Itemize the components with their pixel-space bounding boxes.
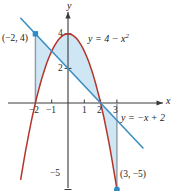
x-tick-label-minus2: −2	[29, 106, 39, 116]
point-label-minus2-4: (−2, 4)	[2, 34, 28, 44]
y-axis-label: y	[67, 1, 71, 11]
y-tick-label-4: 4	[58, 29, 63, 39]
x-tick-label-3: 3	[113, 106, 118, 116]
equation-label-line: y = −x + 2	[121, 113, 165, 123]
x-axis-label: x	[166, 96, 170, 106]
point-marker-b	[114, 187, 120, 191]
equation-label-parabola: y = 4 − x2	[88, 33, 129, 44]
plot-canvas	[0, 0, 179, 191]
x-axis-arrow	[157, 100, 164, 105]
x-tick-label-2: 2	[97, 106, 102, 116]
x-tick-label-minus1: −1	[46, 106, 56, 116]
equation-parabola-text: y = 4 − x	[88, 33, 125, 44]
equation-parabola-exponent: 2	[125, 32, 129, 40]
point-label-3-minus5: (3, −5)	[120, 170, 146, 180]
y-tick-label-2: 2	[58, 64, 63, 74]
point-marker-a	[33, 31, 38, 36]
y-tick-label-minus5: −5	[50, 169, 60, 179]
y-axis-arrow	[65, 12, 70, 19]
graph-figure: y x y = 4 − x2 y = −x + 2 (−2, 4) (3, −5…	[0, 0, 179, 191]
x-tick-label-1: 1	[82, 106, 87, 116]
